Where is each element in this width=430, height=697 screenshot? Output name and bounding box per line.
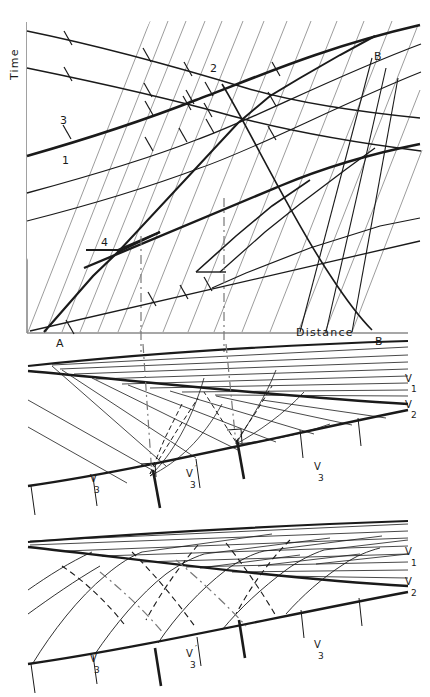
label-V1-sub-2: 1 (411, 558, 417, 568)
figure-canvas: Time Distance A B B 2 3 1 4 (0, 0, 430, 697)
label-V3prime-sub: 3 (190, 480, 196, 490)
seismic-refraction-figure: Time Distance A B B 2 3 1 4 (0, 0, 430, 697)
label-V1-base-2: V (405, 546, 412, 557)
label-V3-left-base: V (90, 473, 97, 484)
label-V3-right-base-2: V (314, 639, 321, 650)
label-V3-left-base-2: V (90, 653, 97, 664)
label-V1-base: V (405, 373, 412, 384)
label-V3-left-sub-2: 3 (94, 665, 100, 675)
distance-axis-label: Distance (296, 326, 354, 339)
label-V3-right-sub: 3 (318, 473, 324, 483)
label-V3prime-sub-2: 3 (190, 660, 196, 670)
label-V2-base-2: V (405, 576, 412, 587)
curve-label-3: 3 (60, 114, 67, 127)
curve-label-2: 2 (210, 62, 217, 75)
label-V3-right-sub-2: 3 (318, 651, 324, 661)
origin-label-A: A (56, 337, 64, 350)
label-V3prime-base: V (186, 468, 193, 479)
label-V3prime-base-2: V (186, 648, 193, 659)
label-V1-sub: 1 (411, 384, 417, 394)
label-V2-base: V (405, 399, 412, 410)
label-V2-sub-2: 2 (411, 588, 417, 598)
label-V3-left-sub: 3 (94, 485, 100, 495)
label-V3-right-base: V (314, 461, 321, 472)
curve-label-1: 1 (62, 154, 69, 167)
time-axis-label: Time (8, 48, 21, 81)
label-V3prime-mark: ′ (195, 464, 197, 474)
label-V2-sub: 2 (411, 410, 417, 420)
curve-label-4: 4 (101, 236, 108, 249)
label-V3prime-mark-2: ′ (195, 644, 197, 654)
top-right-label-B: B (374, 50, 382, 63)
